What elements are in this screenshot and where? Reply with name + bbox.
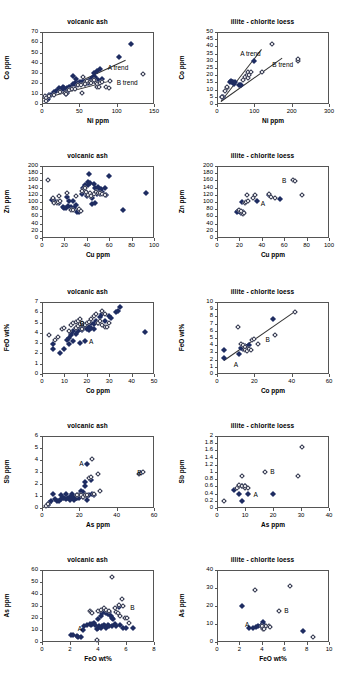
chart-title: volcanic ash: [0, 422, 175, 429]
chart-annotation: A trend: [240, 50, 261, 57]
x-tick-label: 100: [240, 108, 268, 114]
y-tickmark: [40, 180, 43, 181]
x-tickmark: [154, 508, 155, 511]
y-tick-label: 10: [185, 620, 213, 626]
y-tick-label: 0: [10, 504, 38, 510]
chart-panel-p5: volcanic ash0123456701020304050Co ppmFeO…: [0, 288, 175, 406]
y-tick-label: 7: [10, 298, 38, 304]
y-tick-label: 140: [10, 184, 38, 190]
x-tickmark: [217, 238, 218, 241]
y-tick-label: 200: [10, 162, 38, 168]
x-tickmark: [42, 238, 43, 241]
y-tickmark: [215, 465, 218, 466]
y-tick-label: 5: [10, 319, 38, 325]
y-tickmark: [215, 486, 218, 487]
y-tickmark: [215, 338, 218, 339]
y-tick-label: 40: [185, 220, 213, 226]
y-tickmark: [215, 309, 218, 310]
scatter-plot-figure: volcanic ash010203040506070050100150Ni p…: [0, 0, 350, 693]
y-tickmark: [40, 312, 43, 313]
y-tickmark: [40, 472, 43, 473]
y-tick-label: 140: [185, 184, 213, 190]
y-tick-label: 20: [185, 602, 213, 608]
y-tick-label: 40: [185, 566, 213, 572]
x-tick-label: 0: [28, 512, 56, 518]
y-tickmark: [40, 630, 43, 631]
y-tickmark: [215, 82, 218, 83]
x-axis-label: FeO wt%: [42, 655, 154, 662]
y-tickmark: [40, 173, 43, 174]
y-tick-label: 1.2: [185, 461, 213, 467]
y-tickmark: [215, 75, 218, 76]
x-tickmark: [64, 374, 65, 377]
y-tickmark: [215, 46, 218, 47]
y-tick-label: 0: [10, 638, 38, 644]
x-tickmark: [109, 238, 110, 241]
y-tick-label: 10: [185, 298, 213, 304]
y-tick-label: 6: [10, 308, 38, 314]
y-tick-label: 1: [185, 468, 213, 474]
y-axis-label: As ppm: [178, 576, 185, 636]
x-axis-label: FeO wt%: [217, 655, 329, 662]
x-tick-label: 0: [203, 108, 231, 114]
y-tick-label: 0.2: [185, 497, 213, 503]
chart-panel-p3: volcanic ash0204060801001201401601802000…: [0, 152, 175, 270]
y-tickmark: [40, 202, 43, 203]
y-tickmark: [40, 209, 43, 210]
y-tickmark: [40, 224, 43, 225]
x-tick-label: 100: [315, 242, 343, 248]
y-axis-label: Sb ppm: [3, 442, 10, 502]
plot-frame: [217, 570, 329, 642]
x-tick-label: 60: [315, 378, 343, 384]
y-tickmark: [215, 224, 218, 225]
x-axis-label: As ppm: [217, 521, 329, 528]
chart-annotation: B trend: [117, 79, 138, 86]
x-tick-label: 200: [278, 108, 306, 114]
y-axis-label: Sb ppm: [178, 442, 185, 502]
x-tick-label: 100: [140, 242, 168, 248]
x-tick-label: 0: [203, 512, 231, 518]
x-tick-label: 20: [259, 512, 287, 518]
x-tick-label: 6: [112, 646, 140, 652]
x-tickmark: [254, 104, 255, 107]
x-tick-label: 8: [140, 646, 168, 652]
chart-annotation: A: [79, 460, 83, 467]
y-tick-label: 2: [185, 356, 213, 362]
x-tickmark: [239, 642, 240, 645]
chart-panel-p6: illite - chlorite loess01234567891002040…: [175, 288, 350, 406]
y-tickmark: [215, 202, 218, 203]
y-tick-label: 6: [10, 432, 38, 438]
x-tickmark: [132, 374, 133, 377]
y-tickmark: [215, 570, 218, 571]
y-tickmark: [40, 216, 43, 217]
chart-annotation: A: [78, 625, 82, 632]
chart-annotation: B: [282, 177, 286, 184]
y-tick-label: 0: [10, 234, 38, 240]
x-tickmark: [154, 642, 155, 645]
y-tickmark: [215, 61, 218, 62]
y-tick-label: 0: [185, 100, 213, 106]
chart-annotation: B trend: [272, 61, 293, 68]
y-tick-label: 30: [185, 57, 213, 63]
x-tickmark: [217, 374, 218, 377]
x-tickmark: [301, 508, 302, 511]
y-tick-label: 10: [185, 86, 213, 92]
y-tick-label: 80: [185, 205, 213, 211]
y-tickmark: [40, 353, 43, 354]
y-axis-label: FeO wt%: [3, 308, 10, 368]
y-tickmark: [40, 188, 43, 189]
chart-panel-p1: volcanic ash010203040506070050100150Ni p…: [0, 18, 175, 136]
x-axis-label: Co ppm: [217, 387, 329, 394]
x-axis-label: Co ppm: [42, 387, 154, 394]
y-tick-label: 0: [185, 370, 213, 376]
y-tick-label: 45: [185, 35, 213, 41]
x-tickmark: [254, 374, 255, 377]
chart-annotation: A: [253, 491, 257, 498]
x-tickmark: [262, 238, 263, 241]
x-tickmark: [329, 642, 330, 645]
y-tickmark: [40, 594, 43, 595]
y-tickmark: [40, 618, 43, 619]
y-tick-label: 40: [10, 59, 38, 65]
y-tickmark: [40, 343, 43, 344]
x-tick-label: 300: [315, 108, 343, 114]
